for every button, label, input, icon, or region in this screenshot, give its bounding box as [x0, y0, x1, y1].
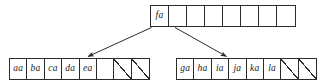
left-cell-2[interactable]: ca [45, 59, 62, 79]
right-cell-2[interactable]: ia [212, 59, 229, 79]
right-cell-4[interactable]: ka [247, 59, 264, 79]
right-cell-1[interactable]: ha [194, 59, 211, 79]
left-cell-0[interactable]: aa [10, 59, 27, 79]
left-cell-4[interactable]: ea [80, 59, 97, 79]
root-node[interactable]: fa [150, 5, 296, 27]
root-cell-3[interactable] [205, 6, 223, 26]
left-cell-3[interactable]: da [62, 59, 79, 79]
root-cell-7[interactable] [277, 6, 295, 26]
left-cell-6-null[interactable] [114, 59, 131, 79]
edge-root-to-left [88, 28, 152, 57]
left-cell-7-null[interactable] [132, 59, 149, 79]
right-child-node[interactable]: ga ha ia ja ka la [176, 58, 317, 80]
root-cell-6[interactable] [259, 6, 277, 26]
root-cell-0[interactable]: fa [151, 6, 169, 26]
edge-root-to-right [175, 28, 227, 57]
root-cell-5[interactable] [241, 6, 259, 26]
left-cell-5[interactable] [97, 59, 114, 79]
right-cell-7-null[interactable] [299, 59, 316, 79]
right-cell-6-null[interactable] [281, 59, 298, 79]
right-cell-3[interactable]: ja [229, 59, 246, 79]
root-cell-4[interactable] [223, 6, 241, 26]
diagram-canvas: fa aa ba ca da ea ga ha ia ja ka la [0, 0, 329, 84]
left-cell-1[interactable]: ba [27, 59, 44, 79]
right-cell-5[interactable]: la [264, 59, 281, 79]
root-cell-2[interactable] [187, 6, 205, 26]
right-cell-0[interactable]: ga [177, 59, 194, 79]
left-child-node[interactable]: aa ba ca da ea [9, 58, 150, 80]
root-cell-1[interactable] [169, 6, 187, 26]
